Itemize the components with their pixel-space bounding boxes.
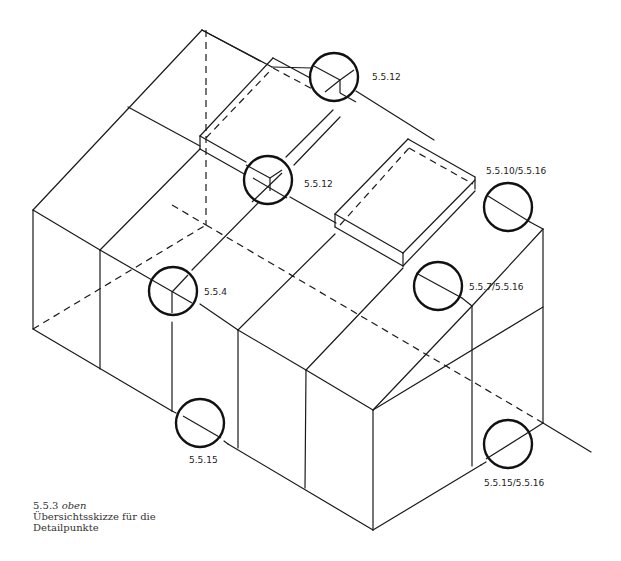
detail-marker-2: 5.5.12 [244,156,333,204]
detail-marker-6: 5.5.15 [172,399,228,465]
caption-line-1: 5.5.3 oben [33,500,156,511]
figure-number: 5.5.3 [33,500,58,511]
isometric-overview-sketch: 5.5.12 5.5.12 5.5.10/5.5.16 5.5.7/5.5.16… [0,0,621,561]
detail-marker-3: 5.5.10/5.5.16 [484,166,547,231]
detail-marker-7: 5.5.15/5.5.16 [481,420,545,488]
caption-line-3: Detailpunkte [33,522,156,533]
figure-caption: 5.5.3 oben Übersichtsskizze für die Deta… [33,500,156,533]
figure-position: oben [62,500,87,511]
detail-label-6: 5.5.15 [189,455,218,465]
detail-label-1: 5.5.12 [372,72,401,82]
detail-marker-1: 5.5.12 [310,53,401,102]
detail-label-5: 5.5.4 [204,287,227,297]
detail-label-7: 5.5.15/5.5.16 [484,478,545,488]
detail-marker-5: 5.5.4 [149,267,227,315]
hidden-edges [33,30,543,423]
caption-line-2: Übersichtsskizze für die [33,511,156,522]
detail-label-2: 5.5.12 [304,179,333,189]
detail-label-4: 5.5.7/5.5.16 [469,282,524,292]
skylight-box-2 [335,139,475,266]
detail-label-3: 5.5.10/5.5.16 [486,166,547,176]
